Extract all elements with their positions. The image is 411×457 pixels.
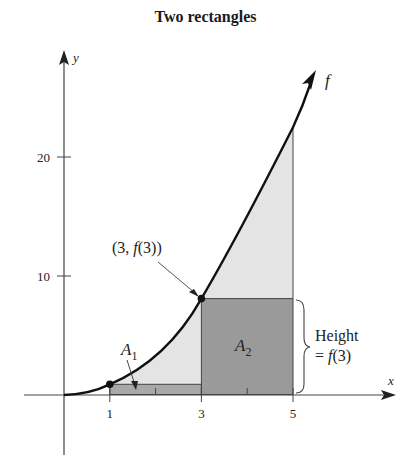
x-tick-label-3: 3 [198,406,205,421]
y-tick-label-10: 10 [37,269,50,284]
height-label-line1: Height [315,327,359,345]
point-x1 [106,381,114,389]
pointer-arrow-icon [189,289,199,297]
point-label: (3, f(3)) [112,239,162,257]
height-brace [296,300,310,393]
x-tick-label-5: 5 [290,406,297,421]
label-a1: A1 [120,340,137,363]
x-axis-label: x [387,373,394,388]
point-x3 [198,295,206,303]
x-tick-label-1: 1 [107,406,114,421]
point-label-pointer [158,262,195,293]
diagram-canvas: 1 3 5 10 20 x y f (3, f(3)) A1 A2 Height… [0,0,411,457]
curve-label-f: f [325,71,332,90]
y-tick-label-20: 20 [37,150,50,165]
y-axis-label: y [71,50,79,65]
height-label-line2: = f(3) [315,347,351,365]
